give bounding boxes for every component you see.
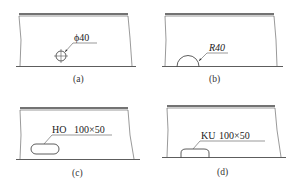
caption-b: (b) — [209, 74, 220, 85]
left-break-edge — [165, 16, 166, 66]
oblong-hole — [31, 144, 59, 154]
leader-line — [193, 141, 200, 149]
feature-size-c: 100×50 — [74, 124, 105, 135]
semicircle-notch — [177, 56, 199, 67]
panel-d: KU 100×50 (d) — [162, 106, 286, 178]
caption-a: (a) — [73, 74, 84, 85]
panel-a: ϕ40 (a) — [16, 14, 136, 85]
caption-d: (d) — [217, 167, 228, 178]
right-break-edge — [274, 16, 277, 66]
figure-canvas: ϕ40 (a) R40 (b) HO 100×50 (c) — [0, 0, 297, 191]
oblong-notch — [181, 149, 209, 158]
left-break-edge — [167, 108, 168, 157]
dimension-label-a: ϕ40 — [74, 32, 89, 43]
left-break-edge — [19, 16, 21, 66]
leader-line — [44, 135, 52, 144]
left-break-edge — [20, 110, 21, 159]
panel-b: R40 (b) — [162, 14, 283, 85]
right-break-edge — [128, 110, 134, 159]
feature-code-c: HO — [52, 124, 66, 135]
right-break-edge — [128, 16, 132, 66]
dimension-label-b: R40 — [208, 42, 225, 53]
feature-code-d: KU — [201, 130, 216, 141]
right-break-edge — [275, 108, 281, 157]
panel-c: HO 100×50 (c) — [16, 108, 140, 179]
feature-size-d: 100×50 — [219, 130, 250, 141]
caption-c: (c) — [72, 168, 83, 179]
